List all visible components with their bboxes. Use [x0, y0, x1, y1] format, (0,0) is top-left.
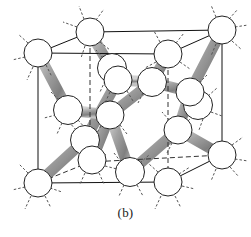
lattice-stub: [105, 166, 117, 169]
lattice-stub: [19, 164, 28, 173]
lattice-stub: [96, 9, 104, 20]
atom-corner-back-top-left[interactable]: [24, 39, 52, 67]
lattice-stub: [149, 164, 158, 172]
lattice-stub: [211, 169, 216, 181]
lattice-stub: [12, 57, 25, 60]
atom-interior-tet-b[interactable]: [164, 116, 192, 144]
atom-corner-front-bot-left[interactable]: [154, 168, 182, 196]
atom-corner-back-top-right[interactable]: [154, 40, 182, 68]
lattice-stub: [180, 62, 190, 69]
atom-face-left-center[interactable]: [54, 96, 83, 125]
lattice-stub: [235, 25, 248, 27]
lattice-stub: [50, 188, 62, 192]
atom-corner-back-bot-left[interactable]: [24, 169, 52, 197]
atom-corner-front-bot-right[interactable]: [208, 141, 236, 169]
figure-caption: (b): [0, 205, 251, 221]
lattice-stub: [154, 31, 160, 42]
lattice-stub: [12, 187, 25, 190]
lattice-stub: [81, 46, 85, 58]
lattice-stub: [211, 5, 216, 17]
lattice-stub: [137, 185, 143, 196]
lattice-stub: [119, 185, 124, 196]
cell-edge: [90, 30, 222, 32]
lattice-stub: [27, 67, 33, 80]
atom-face-front-center[interactable]: [116, 158, 145, 187]
cell-edge: [38, 53, 168, 54]
lattice-stub: [232, 137, 243, 145]
lattice-stub: [229, 9, 238, 19]
lattice-stub: [230, 167, 239, 177]
atom-interior-tet-a[interactable]: [96, 101, 124, 129]
crystal-structure-diagram: [0, 0, 251, 237]
atom-face-back-center[interactable]: [138, 68, 167, 97]
lattice-stub: [232, 41, 242, 50]
lattice-stub: [63, 22, 77, 27]
atom-interior-tet-d[interactable]: [104, 66, 132, 94]
lattice-stub: [79, 6, 84, 19]
atom-corner-front-top-right[interactable]: [208, 16, 236, 44]
lattice-stub: [179, 167, 190, 174]
crystal-structure-figure: (b): [0, 0, 251, 237]
atom-interior-tet-e[interactable]: [176, 78, 204, 106]
lattice-stub: [211, 112, 222, 116]
atom-interior-tet-c[interactable]: [78, 146, 106, 174]
lattice-stub: [18, 34, 28, 43]
lattice-stub: [176, 33, 184, 43]
lattice-stub: [235, 159, 248, 161]
lattice-stub: [208, 88, 217, 96]
lattice-stub: [182, 186, 195, 189]
lattice-stub: [199, 119, 203, 130]
atom-corner-front-top-left[interactable]: [76, 18, 104, 46]
lattice-stub: [57, 123, 62, 134]
